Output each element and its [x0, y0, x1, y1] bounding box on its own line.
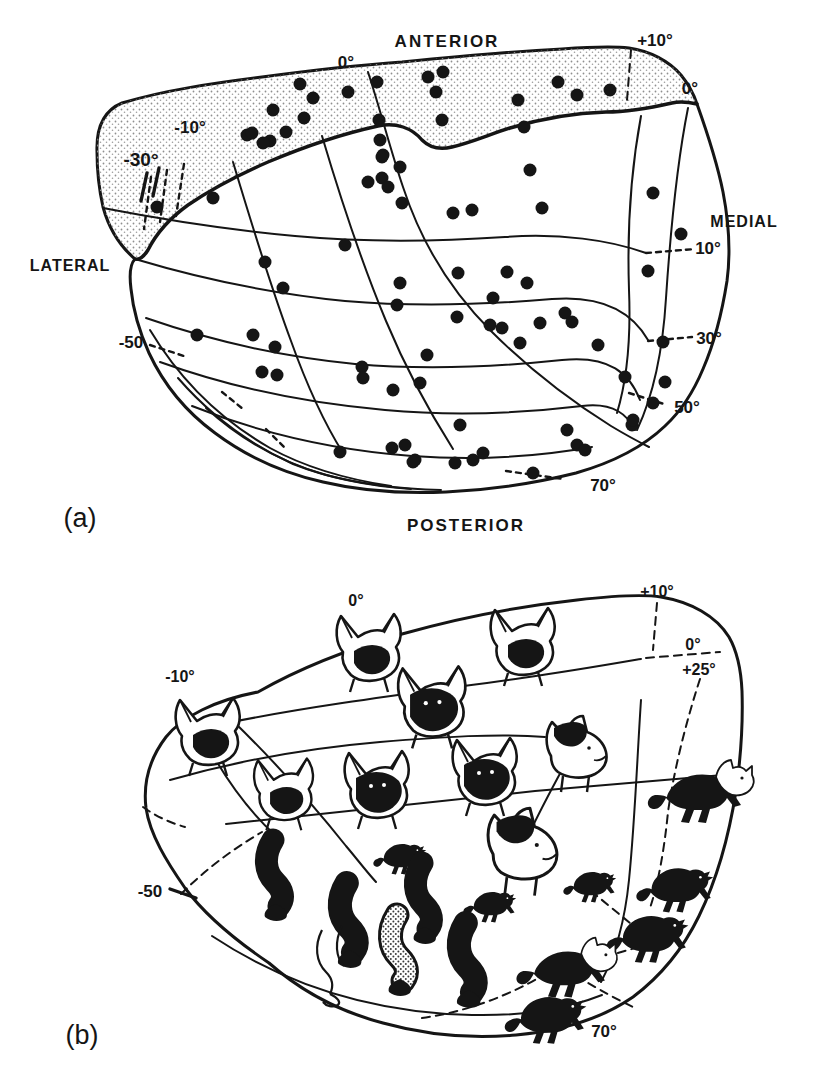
recording-site-dot — [647, 187, 660, 200]
recording-site-dot — [527, 467, 540, 480]
figure-label: ANTERIOR — [395, 32, 500, 51]
panel-a-map: ANTERIOR0°+10°0°-10°-30°LATERALMEDIAL10°… — [30, 31, 778, 535]
recording-site-dot — [534, 317, 547, 330]
recording-site-dot — [207, 192, 220, 205]
recording-site-dot — [627, 414, 640, 427]
figure-label: -10° — [165, 668, 195, 685]
recording-site-dot — [374, 134, 387, 147]
figure-label: +10° — [640, 583, 674, 600]
recording-site-dot — [477, 447, 490, 460]
recording-site-dot — [339, 239, 352, 252]
recording-site-dot — [246, 127, 259, 140]
recording-site-dot — [407, 456, 420, 469]
recording-site-dot — [436, 114, 449, 127]
figure-label: 70° — [590, 476, 616, 495]
recording-site-dot — [561, 424, 574, 437]
figure-label: 50° — [674, 398, 700, 417]
recording-site-dot — [566, 316, 579, 329]
recording-site-dot — [518, 121, 531, 134]
recording-site-dot — [454, 419, 467, 432]
figure-label: 70° — [591, 1022, 617, 1041]
figure-label: 0° — [338, 53, 354, 72]
figure-label: -50 — [119, 333, 144, 352]
recording-site-dot — [334, 446, 347, 459]
recording-site-dot — [307, 92, 320, 105]
panel-b-map: 0°+10°0°+25°-10°-5070°(b) — [66, 583, 754, 1050]
recording-site-dot — [675, 228, 688, 241]
recording-site-dot — [342, 86, 355, 99]
recording-site-dot — [571, 89, 584, 102]
recording-site-dot — [298, 112, 311, 125]
figure-label: +25° — [682, 661, 716, 678]
figure-canvas: ANTERIOR0°+10°0°-10°-30°LATERALMEDIAL10°… — [0, 0, 814, 1077]
recording-site-dot — [524, 164, 537, 177]
recording-site-dot — [422, 71, 435, 84]
recording-site-dot — [619, 371, 632, 384]
figure-label: -30° — [123, 149, 158, 170]
recording-site-dot — [151, 201, 164, 214]
figure-label: 30° — [696, 329, 722, 348]
recording-site-dot — [294, 78, 307, 91]
recording-site-dot — [394, 277, 407, 290]
recording-site-dot — [247, 329, 260, 342]
recording-site-dot — [647, 397, 660, 410]
recording-site-dot — [269, 341, 282, 354]
recording-site-dot — [642, 265, 655, 278]
recording-site-dot — [259, 256, 272, 269]
recording-site-dot — [387, 384, 400, 397]
cortex-outline-b — [145, 596, 742, 1037]
recording-site-dot — [496, 322, 509, 335]
recording-site-dot — [277, 282, 290, 295]
figure-label: POSTERIOR — [407, 516, 525, 535]
recording-site-dot — [386, 442, 399, 455]
recording-site-dot — [604, 84, 617, 97]
recording-site-dot — [382, 181, 395, 194]
figure-label: 0° — [682, 79, 698, 98]
figure-label: LATERAL — [30, 257, 110, 274]
recording-site-dot — [447, 207, 460, 220]
recording-site-dot — [514, 337, 527, 350]
recording-site-dot — [356, 361, 369, 374]
recording-site-dot — [536, 202, 549, 215]
recording-site-dot — [512, 94, 525, 107]
recording-site-dot — [421, 349, 434, 362]
recording-site-dot — [257, 137, 270, 150]
recording-site-dot — [451, 311, 464, 324]
figure-label: MEDIAL — [710, 213, 777, 230]
figure-label: 0° — [685, 636, 700, 653]
recording-site-dot — [391, 299, 404, 312]
recording-site-dot — [552, 76, 565, 89]
recording-site-dot — [399, 439, 412, 452]
figure-label: +10° — [637, 31, 673, 50]
recording-site-dot — [414, 377, 427, 390]
recording-site-dot — [191, 329, 204, 342]
recording-site-dot — [487, 292, 500, 305]
recording-site-dot — [521, 277, 534, 290]
recording-site-dot — [280, 126, 293, 139]
figure-label: (a) — [64, 503, 97, 533]
recording-site-dot — [256, 366, 269, 379]
recording-site-dot — [592, 339, 605, 352]
recording-site-dot — [271, 369, 284, 382]
figure-page: ANTERIOR0°+10°0°-10°-30°LATERALMEDIAL10°… — [0, 0, 814, 1077]
recording-site-dot — [657, 336, 670, 349]
recording-site-dot — [371, 76, 384, 89]
figure-label: -50 — [138, 882, 163, 901]
recording-site-dot — [267, 104, 280, 117]
figure-label: (b) — [66, 1020, 99, 1050]
recording-site-dot — [452, 267, 465, 280]
recording-site-dot — [394, 161, 407, 174]
recording-site-dot — [484, 319, 497, 332]
recording-site-dot — [430, 86, 443, 99]
recording-site-dot — [362, 176, 375, 189]
figure-label: 0° — [348, 592, 363, 609]
recording-site-dot — [357, 372, 370, 385]
recording-site-dot — [373, 114, 386, 127]
figure-label: -10° — [174, 118, 206, 137]
recording-site-dot — [437, 66, 450, 79]
recording-site-dot — [659, 376, 672, 389]
recording-site-dot — [501, 266, 514, 279]
recording-site-dot — [396, 197, 409, 210]
recording-site-dot — [466, 204, 479, 217]
recording-site-dot — [376, 151, 389, 164]
